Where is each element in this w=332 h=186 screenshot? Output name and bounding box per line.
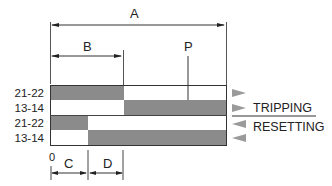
- row-separator: [50, 115, 227, 116]
- legend-tripping: TRIPPING: [253, 102, 312, 114]
- legend-resetting: RESETTING: [253, 121, 325, 133]
- label-b: B: [83, 41, 92, 53]
- row-label-resetting-21-22: 21-22: [0, 117, 44, 129]
- label-a: A: [130, 8, 139, 20]
- label-p: P: [184, 41, 193, 53]
- label-d: D: [103, 158, 112, 170]
- row-label-tripping-13-14: 13-14: [0, 102, 44, 114]
- row-label-resetting-13-14: 13-14: [0, 132, 44, 144]
- label-c: C: [64, 158, 73, 170]
- row-label-tripping-21-22: 21-22: [0, 87, 44, 99]
- label-origin: 0: [49, 151, 55, 163]
